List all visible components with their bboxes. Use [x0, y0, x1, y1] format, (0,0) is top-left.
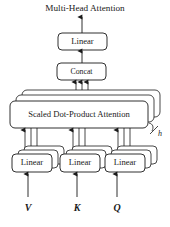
multi-head-attention-diagram: Multi-Head Attention Linear Concat	[0, 0, 170, 227]
input-k: K	[73, 174, 82, 213]
input-q: Q	[113, 174, 120, 213]
input-label-q: Q	[113, 202, 120, 213]
node-concat: Concat	[57, 63, 106, 80]
linear-v-label: Linear	[21, 157, 44, 167]
node-linear-k: Linear	[60, 146, 112, 172]
input-v: V	[25, 174, 33, 213]
output-linear-label: Linear	[71, 36, 94, 46]
head-count-annotation: h	[149, 123, 162, 138]
attention-label: Scaled Dot-Product Attention	[28, 109, 130, 119]
figure-title: Multi-Head Attention	[45, 3, 125, 13]
linear-q-label: Linear	[114, 157, 137, 167]
node-output-linear: Linear	[58, 33, 107, 50]
head-count-label: h	[158, 129, 162, 138]
node-linear-q: Linear	[105, 146, 157, 172]
figure-canvas: Multi-Head Attention Linear Concat	[0, 0, 170, 227]
input-label-v: V	[25, 202, 33, 213]
linear-k-label: Linear	[69, 157, 92, 167]
concat-label: Concat	[70, 67, 93, 76]
node-linear-v: Linear	[12, 146, 64, 172]
node-scaled-dot-product-attention: Scaled Dot-Product Attention	[10, 90, 160, 128]
input-label-k: K	[73, 202, 82, 213]
